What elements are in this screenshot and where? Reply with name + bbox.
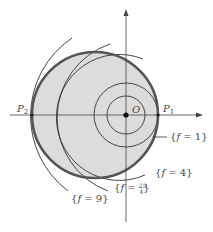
origin-point [123,112,128,117]
label-f25-4: {f = 254} [114,182,150,195]
label-f9: {f = 9} [71,193,109,204]
p2-label: P2 [16,103,28,116]
label-f1: {f = 1} [170,131,208,142]
label-f4: {f = 4} [155,167,193,178]
point-p1 [156,113,159,116]
origin-label: O [132,104,140,115]
diagram-canvas: O P1 P2 {f = 1} {f = 4} {f = 254} {f = 9… [0,0,213,232]
p1-label: P1 [162,103,174,116]
point-p2 [30,113,33,116]
y-axis-arrow-icon [124,9,129,16]
x-axis-arrow-icon [196,113,203,118]
